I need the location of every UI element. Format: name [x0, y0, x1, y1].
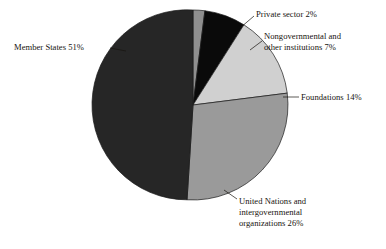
pie-chart-figure: Member States 51% Private sector 2% Nong… [0, 0, 386, 249]
pie-label-foundations: Foundations 14% [301, 92, 362, 103]
pie-label-united-nations-line2: intergovernmental [239, 207, 306, 218]
pie-label-private-sector: Private sector 2% [256, 9, 317, 20]
pie-label-nongovernmental-line2: other institutions 7% [264, 42, 341, 53]
pie-label-united-nations-line3: organizations 26% [239, 218, 306, 229]
pie-label-member-states: Member States 51% [14, 42, 84, 53]
pie-label-nongovernmental: Nongovernmental and other institutions 7… [264, 31, 341, 53]
pie-label-nongovernmental-line1: Nongovernmental and [264, 31, 341, 42]
pie-slice-member-states [92, 10, 193, 200]
pie-slice-united-nations [187, 93, 288, 200]
pie-label-private-sector-text: Private sector 2% [256, 9, 317, 19]
pie-label-member-states-text: Member States 51% [14, 42, 84, 52]
leader-line-private-sector [240, 16, 254, 28]
pie-label-united-nations-line1: United Nations and [239, 196, 306, 207]
pie-label-foundations-text: Foundations 14% [301, 92, 362, 102]
pie-label-united-nations: United Nations and intergovernmental org… [239, 196, 306, 229]
